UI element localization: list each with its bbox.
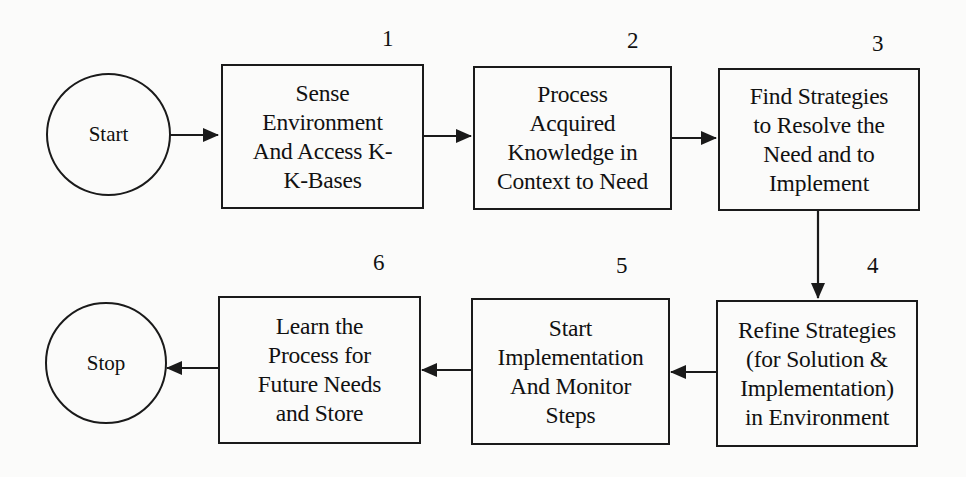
step-number-3: 3 bbox=[872, 31, 884, 57]
step-number-1: 1 bbox=[382, 26, 394, 52]
step-box-4: Refine Strategies (for Solution & Implem… bbox=[716, 300, 918, 447]
step-number-5: 5 bbox=[616, 253, 628, 279]
step-label-1: Sense Environment And Access K- K-Bases bbox=[253, 79, 393, 195]
step-label-6: Learn the Process for Future Needs and S… bbox=[258, 312, 382, 428]
step-label-3: Find Strategies to Resolve the Need and … bbox=[750, 82, 889, 198]
step-number-6: 6 bbox=[373, 250, 385, 276]
stop-label: Stop bbox=[87, 351, 126, 376]
start-terminal: Start bbox=[46, 73, 171, 196]
step-box-1: Sense Environment And Access K- K-Bases bbox=[221, 64, 424, 209]
step-number-2: 2 bbox=[627, 28, 639, 54]
stop-terminal: Stop bbox=[45, 302, 167, 424]
step-label-2: Process Acquired Knowledge in Context to… bbox=[497, 80, 648, 196]
step-box-3: Find Strategies to Resolve the Need and … bbox=[718, 68, 920, 211]
step-number-4: 4 bbox=[867, 253, 879, 279]
flowchart-canvas: Start Stop 1 2 3 4 5 6 Sense Environment… bbox=[0, 0, 966, 477]
step-box-6: Learn the Process for Future Needs and S… bbox=[218, 296, 421, 444]
start-label: Start bbox=[89, 122, 129, 147]
step-box-2: Process Acquired Knowledge in Context to… bbox=[473, 66, 672, 210]
step-label-4: Refine Strategies (for Solution & Implem… bbox=[738, 316, 896, 432]
step-box-5: Start Implementation And Monitor Steps bbox=[471, 298, 670, 445]
step-label-5: Start Implementation And Monitor Steps bbox=[498, 314, 644, 430]
